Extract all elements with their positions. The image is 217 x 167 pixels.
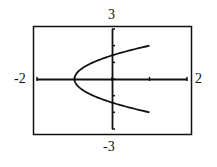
x-min-label: -2	[14, 72, 26, 86]
y-min-label: -3	[103, 140, 115, 154]
y-max-label: 3	[108, 8, 115, 22]
x-max-label: 2	[195, 72, 202, 86]
